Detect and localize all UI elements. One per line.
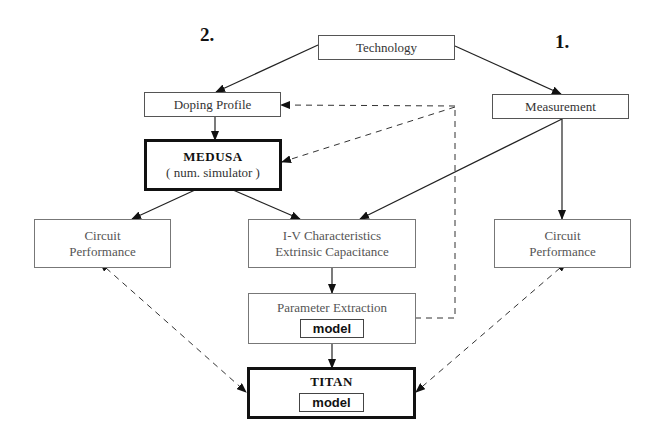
titan-title: TITAN [310,374,353,390]
circuit-left-line2: Performance [69,244,135,260]
circuit-right-line1: Circuit [544,228,580,244]
iv-line2: Extrinsic Capacitance [275,244,389,260]
dashed-arrow-circuit-left-titan [106,268,246,392]
medusa-subtitle: ( num. simulator ) [166,165,260,181]
param-extraction-model-box: model [300,319,364,338]
doping-profile-label: Doping Profile [174,97,252,113]
medusa-title: MEDUSA [183,149,242,165]
node-technology: Technology [318,35,455,60]
arrow-tech-to-measurement [455,46,561,94]
dashed-arrow-to-doping [281,105,455,106]
feedback-dashed-line [415,107,455,318]
node-circuit-performance-right: Circuit Performance [494,219,631,268]
approach-2-label: 2. [200,24,214,46]
arrow-tech-to-doping [216,45,318,92]
arrow-medusa-to-iv [233,190,300,219]
measurement-label: Measurement [525,99,596,115]
param-extraction-title: Parameter Extraction [277,300,387,316]
arrow-measurement-to-iv [360,119,562,219]
approach-1-label: 1. [555,31,569,53]
circuit-right-line2: Performance [529,244,595,260]
node-medusa: MEDUSA ( num. simulator ) [144,139,282,191]
node-parameter-extraction: Parameter Extraction model [248,293,416,344]
technology-label: Technology [356,40,417,56]
node-titan: TITAN model [247,367,416,419]
dashed-arrow-circuit-right-titan [416,268,560,392]
node-circuit-performance-left: Circuit Performance [34,219,171,268]
dashed-arrow-to-medusa [282,107,455,162]
node-doping-profile: Doping Profile [144,92,281,117]
node-measurement: Measurement [492,94,629,119]
circuit-left-line1: Circuit [84,228,120,244]
arrow-medusa-to-circuit-left [132,190,195,219]
titan-model-box: model [299,393,363,412]
iv-line1: I-V Characteristics [283,228,381,244]
node-iv-characteristics: I-V Characteristics Extrinsic Capacitanc… [248,219,416,268]
